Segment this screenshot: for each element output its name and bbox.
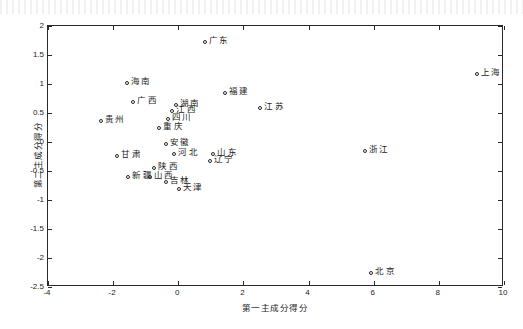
x-tick-label: 6 <box>370 288 374 297</box>
page-scan-artifact <box>0 0 523 14</box>
x-tick <box>243 281 244 285</box>
y-tick <box>48 84 52 85</box>
x-tick-top <box>178 26 179 30</box>
x-tick <box>178 281 179 285</box>
data-point <box>172 152 176 156</box>
y-tick-right <box>498 229 502 230</box>
y-tick <box>48 258 52 259</box>
data-point-label: 福建 <box>229 84 250 96</box>
x-tick <box>504 281 505 285</box>
y-tick <box>48 171 52 172</box>
data-point-label: 上海 <box>481 65 502 77</box>
y-tick-right <box>498 200 502 201</box>
x-axis-label: 第一主成分得分 <box>242 301 309 313</box>
x-tick-label: -2 <box>109 288 116 297</box>
x-tick-top <box>504 26 505 30</box>
data-point-label: 北京 <box>375 264 396 276</box>
data-point <box>157 126 161 130</box>
x-tick-label: 10 <box>499 288 508 297</box>
data-point <box>148 175 152 179</box>
y-tick <box>48 142 52 143</box>
data-point <box>203 40 207 44</box>
x-tick-top <box>374 26 375 30</box>
data-point-label: 甘肃 <box>121 147 142 159</box>
data-point <box>223 91 227 95</box>
data-point-label: 天津 <box>183 180 204 192</box>
data-point <box>177 187 181 191</box>
x-tick-top <box>439 26 440 30</box>
data-point <box>363 149 367 153</box>
data-point-label: 浙江 <box>369 142 390 154</box>
y-tick-right <box>498 171 502 172</box>
x-tick <box>48 281 49 285</box>
y-tick-right <box>498 113 502 114</box>
x-tick-label: 8 <box>436 288 440 297</box>
x-tick-top <box>309 26 310 30</box>
x-tick <box>309 281 310 285</box>
x-tick <box>439 281 440 285</box>
x-tick-label: -4 <box>43 288 50 297</box>
data-point-label: 辽宁 <box>214 152 235 164</box>
x-tick-label: 2 <box>240 288 244 297</box>
x-tick <box>113 281 114 285</box>
y-tick <box>48 26 52 27</box>
y-tick <box>48 229 52 230</box>
y-tick-right <box>498 258 502 259</box>
data-point-label: 广东 <box>209 33 230 45</box>
data-point <box>125 81 129 85</box>
y-tick-label: 2 <box>40 21 44 30</box>
data-point <box>164 180 168 184</box>
data-point <box>115 154 119 158</box>
data-point-label: 重庆 <box>163 119 184 131</box>
y-tick <box>48 200 52 201</box>
x-tick-label: 4 <box>305 288 309 297</box>
y-tick-label: -1.5 <box>30 224 44 233</box>
y-tick-label: -2 <box>37 253 44 262</box>
y-tick-label: -1 <box>37 195 44 204</box>
data-point-label: 广西 <box>137 93 158 105</box>
data-point-label: 江苏 <box>264 99 285 111</box>
data-point <box>369 271 373 275</box>
y-tick-right <box>498 55 502 56</box>
y-tick-label: -2.5 <box>30 282 44 291</box>
data-point <box>258 106 262 110</box>
data-point-label: 海南 <box>131 74 152 86</box>
y-axis-label: 第二主成分得分 <box>31 122 43 189</box>
y-tick-label: 1 <box>40 79 44 88</box>
y-tick <box>48 113 52 114</box>
x-tick-top <box>243 26 244 30</box>
data-point <box>126 175 130 179</box>
y-tick-right <box>498 26 502 27</box>
data-point-label: 河北 <box>178 145 199 157</box>
x-tick-top <box>113 26 114 30</box>
data-point <box>131 100 135 104</box>
y-tick-label: 1.5 <box>33 50 44 59</box>
x-tick <box>374 281 375 285</box>
data-point <box>164 142 168 146</box>
y-tick-right <box>498 142 502 143</box>
data-point <box>475 72 479 76</box>
y-tick <box>48 55 52 56</box>
scatter-chart-figure: -4-2024681021.510.50-0.5-1-1.5-2-2.5 广东上… <box>0 0 523 329</box>
data-point <box>208 159 212 163</box>
data-point-label: 贵州 <box>105 112 126 124</box>
y-tick-right <box>498 84 502 85</box>
data-point <box>99 119 103 123</box>
y-tick-label: 0.5 <box>33 108 44 117</box>
x-tick-label: 0 <box>175 288 179 297</box>
